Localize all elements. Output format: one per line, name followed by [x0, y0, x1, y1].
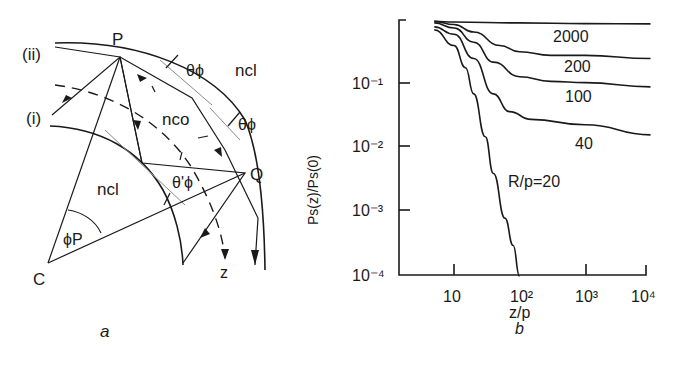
label-ray-i: (i): [26, 109, 41, 128]
label-n-cl-inner: ncl: [97, 180, 119, 199]
phi-arc: [68, 210, 101, 233]
label-phi-p: ϕP: [63, 231, 83, 248]
caption-b: b: [515, 320, 524, 337]
chart-axes: [399, 20, 646, 275]
curve-r-p-2000: [434, 21, 650, 24]
x-tick-label: 10²: [510, 288, 534, 305]
y-tick-label: 10⁻²: [352, 138, 384, 155]
x-tick-label: 10: [443, 288, 461, 305]
label-center-c: C: [33, 270, 45, 289]
x-axis-label: z/p: [509, 304, 530, 321]
y-ticks: [399, 83, 410, 210]
curve-label-20: R/p=20: [508, 173, 560, 190]
curves: [434, 21, 650, 276]
label-point-p: P: [112, 30, 123, 49]
label-point-q: Q: [250, 165, 263, 184]
figure: (ii) (i) P Q C θϕ θϕ θ'ϕ ncl nco ncl ϕP …: [0, 0, 676, 367]
arrowheads: [62, 74, 259, 265]
panel-b-chart: 10⁻¹ 10⁻² 10⁻³ 10⁻⁴ 10 10² 10³ 10⁴ z/p b…: [305, 20, 656, 337]
outer-core-boundary: [55, 43, 265, 270]
label-n-co: nco: [162, 110, 189, 129]
radius-cq: [48, 173, 245, 263]
caption-a: a: [100, 322, 109, 341]
label-theta-phi-2: θϕ: [238, 116, 256, 133]
curve-r-p-20: [434, 30, 519, 276]
label-theta-phi-1: θϕ: [186, 62, 204, 79]
curve-label-100: 100: [565, 88, 592, 105]
curve-label-40: 40: [575, 135, 593, 152]
label-ray-ii: (ii): [22, 45, 41, 64]
label-n-cl-outer: ncl: [235, 61, 257, 80]
label-axis-z: z: [220, 264, 228, 281]
y-tick-label: 10⁻¹: [352, 75, 383, 92]
x-ticks: [454, 264, 586, 275]
x-tick-label: 10³: [575, 288, 599, 305]
curve-label-2000: 2000: [553, 28, 589, 45]
x-tick-label: 10⁴: [631, 288, 656, 305]
y-tick-label: 10⁻⁴: [352, 267, 385, 284]
panel-a-ray-diagram: (ii) (i) P Q C θϕ θϕ θ'ϕ ncl nco ncl ϕP …: [22, 30, 265, 341]
label-theta-phi-prime: θ'ϕ: [172, 174, 193, 191]
y-axis-label: Ps(z)/Ps(0): [305, 155, 321, 225]
curve-label-200: 200: [564, 58, 591, 75]
y-tick-label: 10⁻³: [352, 202, 384, 219]
tangent-line: [210, 108, 240, 140]
